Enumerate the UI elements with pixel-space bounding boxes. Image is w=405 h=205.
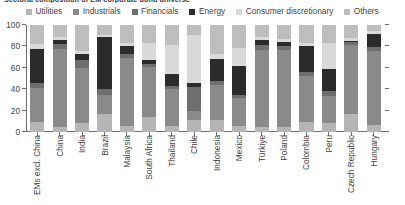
x-axis-label: Chile (190, 135, 199, 154)
y-tick-right (385, 131, 389, 132)
bar-segment (142, 117, 156, 132)
x-label-slot: China (48, 135, 70, 205)
bar-segment (120, 46, 134, 53)
x-label-slot: Mexico (228, 135, 250, 205)
bar-segment (344, 25, 358, 38)
bar-segment (299, 122, 313, 132)
bar-segment (210, 59, 224, 80)
stacked-bar[interactable] (30, 25, 44, 132)
bar-segment (255, 25, 269, 37)
legend-swatch-industrials (73, 9, 79, 15)
stacked-bar[interactable] (344, 25, 358, 132)
stacked-bar[interactable] (367, 25, 381, 132)
bar-slot[interactable] (340, 25, 362, 132)
bar-slot[interactable] (48, 25, 70, 132)
bar-slot[interactable] (183, 25, 205, 132)
bar-segment (344, 45, 358, 113)
bar-slot[interactable] (228, 25, 250, 132)
bar-segment (97, 95, 111, 114)
x-label-slot: Indonesia (206, 135, 228, 205)
bar-segment (232, 25, 246, 47)
bar-segment (30, 88, 44, 122)
x-axis-label: India (78, 135, 87, 153)
legend-swatch-utilities (26, 9, 32, 15)
bar-slot[interactable] (93, 25, 115, 132)
stacked-bar[interactable] (277, 25, 291, 132)
bar-segment (30, 49, 44, 83)
bar-slot[interactable] (363, 25, 385, 132)
bar-segment (165, 45, 179, 74)
stacked-bar[interactable] (255, 25, 269, 132)
x-axis-label: Colombia (302, 135, 311, 170)
y-tick-label: 0 (15, 127, 20, 137)
legend-item-utilities: Utilities (26, 7, 62, 16)
y-tick-label: 60 (11, 63, 20, 73)
legend-swatch-energy (189, 9, 195, 15)
y-tick-right (385, 67, 389, 68)
y-tick-right (385, 88, 389, 89)
legend-item-consumer-discretionary: Consumer discretionary (236, 7, 333, 16)
stacked-bar[interactable] (75, 25, 89, 132)
bar-slot[interactable] (26, 25, 48, 132)
bar-segment (232, 48, 246, 66)
bar-segment (30, 122, 44, 132)
bar-segment (299, 25, 313, 43)
bar-slot[interactable] (71, 25, 93, 132)
bar-slot[interactable] (116, 25, 138, 132)
bar-segment (210, 85, 224, 120)
x-axis-labels: EMs excl. ChinaChinaIndiaBrazilMalaysiaS… (26, 135, 385, 205)
bar-segment (187, 25, 201, 35)
x-axis-label: Poland (280, 135, 289, 161)
x-axis-label: Mexico (235, 135, 244, 161)
legend-label-others: Others (354, 7, 379, 16)
bar-segment (210, 120, 224, 132)
chart-legend: Utilities Industrials Financials Energy … (26, 7, 390, 16)
bar-segment (75, 123, 89, 132)
stacked-bar[interactable] (142, 25, 156, 132)
x-label-slot: Hungary (363, 135, 385, 205)
stacked-bar[interactable] (322, 25, 336, 132)
bar-segment (53, 25, 67, 37)
bar-slot[interactable] (138, 25, 160, 132)
y-tick-label: 20 (11, 106, 20, 116)
legend-item-others: Others (344, 7, 378, 16)
x-label-slot: Chile (183, 135, 205, 205)
x-label-slot: Thailand (161, 135, 183, 205)
bar-slot[interactable] (206, 25, 228, 132)
bar-segment (232, 98, 246, 126)
x-axis-label: Türkiye (257, 135, 266, 162)
x-axis-label: Thailand (167, 135, 176, 167)
x-label-slot: Türkiye (250, 135, 272, 205)
y-tick-right (385, 110, 389, 111)
bar-segment (322, 69, 336, 91)
x-axis-label: Czech Republic (347, 135, 356, 193)
bar-slot[interactable] (318, 25, 340, 132)
stacked-bar[interactable] (165, 25, 179, 132)
x-axis-label: Brazil (100, 135, 109, 156)
stacked-bar[interactable] (299, 25, 313, 132)
bar-segment (322, 43, 336, 69)
stacked-bar[interactable] (187, 25, 201, 132)
stacked-bar[interactable] (120, 25, 134, 132)
bar-slot[interactable] (250, 25, 272, 132)
bar-segment (232, 66, 246, 95)
legend-swatch-financials (132, 9, 138, 15)
x-label-slot: Malaysia (116, 135, 138, 205)
bar-slot[interactable] (161, 25, 183, 132)
bar-group (26, 25, 385, 132)
legend-item-industrials: Industrials (73, 7, 120, 16)
stacked-bar[interactable] (232, 25, 246, 132)
bar-segment (142, 25, 156, 43)
bar-segment (187, 120, 201, 132)
bar-segment (75, 68, 89, 124)
legend-swatch-consumer-discretionary (236, 9, 242, 15)
chart-title: Sectoral composition of EM corporate bon… (4, 0, 190, 3)
bar-slot[interactable] (273, 25, 295, 132)
stacked-bar[interactable] (53, 25, 67, 132)
bar-segment (277, 50, 291, 127)
stacked-bar[interactable] (210, 25, 224, 132)
bar-slot[interactable] (295, 25, 317, 132)
stacked-bar[interactable] (97, 25, 111, 132)
bar-segment (97, 25, 111, 35)
x-axis-label: Malaysia (122, 135, 131, 168)
